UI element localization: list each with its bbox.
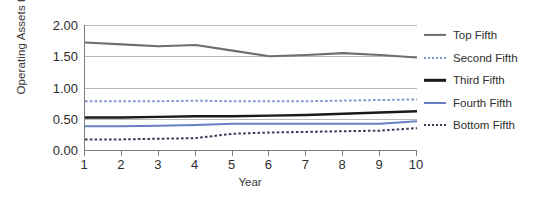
x-axis-tick [232,150,233,156]
legend-item-label: Bottom Fifth [453,119,515,131]
x-axis-tick-label: 2 [117,157,124,172]
legend-item-label: Second Fifth [453,52,518,64]
series-line-top-fifth [85,43,417,58]
x-axis-tick-label: 6 [265,157,272,172]
y-axis-tick-label: 0.50 [53,111,78,126]
x-axis-tick [121,150,122,156]
legend-swatch-icon [424,98,446,108]
line-chart-figure: Operating Assets to Sales 0.000.501.001.… [0,0,536,201]
legend-item-third-fifth[interactable]: Third Fifth [424,69,536,92]
x-axis-tick [268,150,269,156]
legend-item-bottom-fifth[interactable]: Bottom Fifth [424,114,536,137]
x-axis-tick-label: 5 [228,157,235,172]
x-axis-tick [158,150,159,156]
x-axis-tick-label: 8 [339,157,346,172]
plot-area [84,25,417,150]
x-axis-tick-label: 10 [409,157,423,172]
x-axis-tick-label: 4 [191,157,198,172]
x-axis-ticks [84,150,416,156]
x-axis-tick [195,150,196,156]
legend-item-label: Third Fifth [453,74,505,86]
y-axis-tick-label: 1.50 [53,49,78,64]
legend-swatch-icon [424,53,446,63]
x-axis-tick [416,150,417,156]
series-line-fourth-fifth [85,121,417,126]
x-axis-tick-label: 1 [80,157,87,172]
x-axis-tick [84,150,85,156]
x-axis-tick-labels: 12345678910 [84,157,416,175]
y-axis-tick-label: 0.00 [53,143,78,158]
legend-swatch-icon [424,75,446,85]
series-lines [85,25,417,150]
y-axis-tick-label: 2.00 [53,18,78,33]
legend-swatch-icon [424,120,446,130]
series-line-third-fifth [85,111,417,117]
legend-item-top-fifth[interactable]: Top Fifth [424,24,536,47]
legend-swatch-icon [424,30,446,40]
x-axis-tick [342,150,343,156]
x-axis-tick [379,150,380,156]
x-axis-tick [305,150,306,156]
x-axis-tick-label: 9 [375,157,382,172]
x-axis-tick-label: 3 [154,157,161,172]
legend-item-label: Fourth Fifth [453,97,512,109]
y-axis-tick-label: 1.00 [53,80,78,95]
legend-item-label: Top Fifth [453,29,497,41]
legend-item-fourth-fifth[interactable]: Fourth Fifth [424,92,536,115]
legend-item-second-fifth[interactable]: Second Fifth [424,47,536,70]
legend: Top FifthSecond FifthThird FifthFourth F… [424,24,536,137]
y-axis-tick-labels: 0.000.501.001.502.00 [24,0,78,201]
x-axis-title: Year [84,176,416,188]
series-line-bottom-fifth [85,128,417,139]
x-axis-tick-label: 7 [302,157,309,172]
series-line-second-fifth [85,99,417,101]
